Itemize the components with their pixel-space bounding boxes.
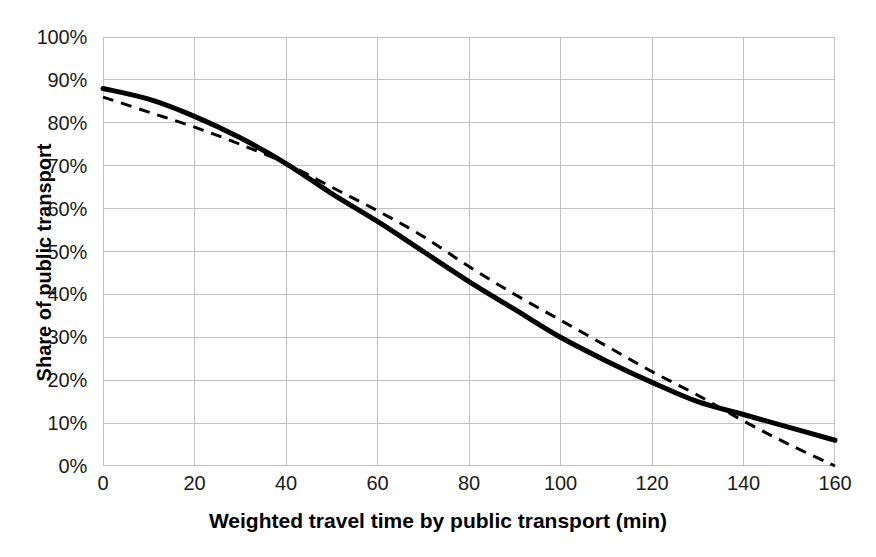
y-tick-label: 0% <box>58 455 87 478</box>
y-tick-label: 90% <box>48 68 87 91</box>
chart-container: Share of public transport 0%10%20%30%40%… <box>0 0 876 557</box>
x-tick-label: 40 <box>275 472 297 495</box>
y-tick-label: 40% <box>48 283 87 306</box>
x-tick-label: 80 <box>458 472 480 495</box>
y-tick-label: 70% <box>48 154 87 177</box>
x-axis-title: Weighted travel time by public transport… <box>0 509 876 533</box>
y-tick-label: 80% <box>48 111 87 134</box>
series-line-0 <box>103 88 835 440</box>
x-tick-label: 140 <box>727 472 760 495</box>
x-tick-label: 20 <box>184 472 206 495</box>
y-tick-label: 50% <box>48 240 87 263</box>
y-tick-label: 100% <box>37 26 87 49</box>
y-tick-label: 10% <box>48 412 87 435</box>
plot-area <box>103 37 835 466</box>
x-tick-label: 160 <box>819 472 852 495</box>
y-tick-label: 60% <box>48 197 87 220</box>
x-tick-label: 100 <box>544 472 577 495</box>
y-tick-label: 30% <box>48 326 87 349</box>
x-tick-label: 120 <box>636 472 669 495</box>
data-series-layer <box>103 37 835 466</box>
x-tick-label: 0 <box>98 472 109 495</box>
y-axis-tick-labels: 0%10%20%30%40%50%60%70%80%90%100% <box>0 0 95 557</box>
y-tick-label: 20% <box>48 369 87 392</box>
x-axis-tick-labels: 020406080100120140160 <box>103 472 835 506</box>
x-tick-label: 60 <box>367 472 389 495</box>
